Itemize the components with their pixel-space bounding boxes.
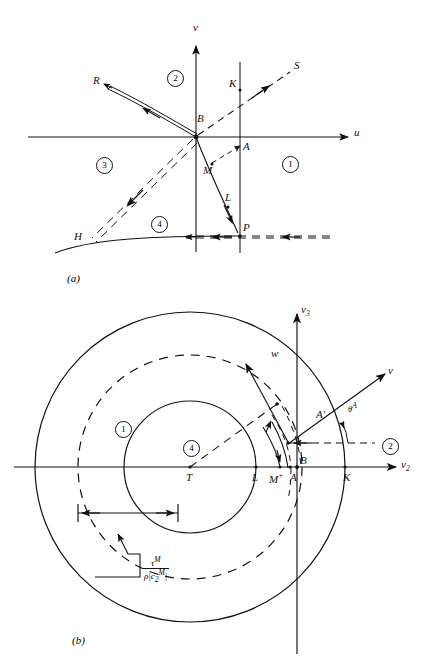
panel-b-v3-sub: 3	[306, 309, 310, 318]
panel-a-dashed-BH	[92, 139, 197, 242]
panel-b-graphics	[0, 282, 435, 672]
panel-a-point-L-label: L	[225, 192, 231, 203]
figure-container: v u R S K B A M L P H 2 1 3 4 (a)	[0, 0, 435, 672]
panel-b-point-B-prime-label: A′	[316, 409, 325, 420]
panel-a-curve-BR	[104, 84, 197, 137]
panel-b-region-4: 4	[183, 440, 200, 457]
panel-a-region-3: 3	[96, 157, 113, 174]
panel-a-dashed-BS	[198, 72, 290, 135]
measure-denominator: ρ|c2M|	[142, 568, 169, 584]
panel-b-angle-theta-A-label: θA	[348, 402, 357, 413]
panel-a-u-axis-label: u	[354, 127, 360, 138]
panel-b-vector-v-label: v	[388, 365, 393, 376]
panel-b-point-K-label: K	[343, 472, 350, 483]
panel-b-theta-sup: A	[352, 401, 357, 410]
panel-b-node-Mplus	[278, 465, 281, 468]
panel-b-node-L	[254, 465, 257, 468]
panel-a-point-K-label: K	[229, 78, 236, 89]
panel-b-vector-w-label: w	[271, 348, 278, 359]
panel-b-vector-v	[288, 374, 385, 444]
panel-a-node-B	[194, 135, 199, 140]
panel-b-region-1: 1	[115, 421, 132, 438]
panel-a-region-4: 4	[151, 216, 168, 233]
panel-a-graphics	[0, 0, 435, 290]
panel-b-angle-reference-line	[288, 422, 375, 443]
panel-b-point-L-label: L	[252, 472, 258, 483]
panel-b-node-A	[288, 465, 291, 468]
panel-b-v2-sub: 2	[406, 464, 410, 473]
panel-a-region-2: 2	[167, 70, 184, 87]
panel-b-measure-bar	[78, 504, 178, 522]
panel-a-point-H-label: H	[74, 231, 82, 242]
panel-a-node-K	[239, 89, 242, 92]
panel-b-v3-axis-label: v3	[301, 304, 310, 318]
panel-b-node-Aprime	[275, 402, 279, 406]
panel-b-leader-line	[95, 534, 140, 577]
panel-a-node-L	[227, 206, 230, 209]
panel-a-point-M-label: M	[203, 165, 212, 176]
panel-b-point-M-plus-label: M+	[269, 472, 283, 485]
panel-b-point-T-label: T	[186, 472, 192, 483]
measure-c-sup: M	[159, 568, 165, 577]
panel-b-node-B	[295, 465, 299, 469]
panel-a-region-1: 1	[282, 156, 299, 173]
measure-rho: ρ	[144, 571, 148, 581]
panel-b-node-K	[343, 465, 346, 468]
panel-b-node-T	[188, 465, 191, 468]
panel-a-point-S-label: S	[294, 60, 300, 71]
panel-b-region-2: 2	[382, 438, 399, 455]
measure-numerator: τM	[142, 556, 169, 568]
panel-a-v-axis-label: v	[193, 22, 198, 33]
panel-a-point-B-label: B	[197, 113, 204, 124]
panel-a-point-A-label: A	[243, 141, 250, 152]
panel-b-point-B-label: B	[300, 455, 307, 466]
panel-a-curve-H	[55, 236, 240, 253]
panel-b-caption: (b)	[72, 634, 85, 646]
panel-b-v2-axis-label: v2	[401, 459, 410, 473]
panel-b-dashed-ray-TA	[190, 404, 277, 467]
panel-b-radius-measure-label: τM ρ|c2M|	[142, 556, 169, 585]
panel-a-dashed-MA	[212, 146, 240, 163]
measure-tau-sup: M	[154, 555, 160, 564]
panel-b-node-Bprime	[286, 441, 290, 445]
panel-b-Mplus-base: M	[269, 473, 278, 485]
panel-a-point-P-label: P	[243, 222, 250, 233]
panel-b-point-A-label: A	[290, 472, 297, 483]
panel-b-arc-MA	[263, 421, 288, 468]
panel-b-Mplus-sup: +	[278, 471, 283, 480]
panel-a-point-R-label: R	[93, 75, 100, 86]
